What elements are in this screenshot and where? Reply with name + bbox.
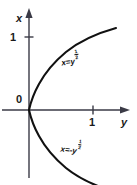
- plot-area: x y 1 1 0: [0, 0, 137, 185]
- lower-branch-annotation-base: x=-y: [60, 145, 77, 156]
- parabola-figure: x y 1 1 0 x=y12 x=-y12: [0, 0, 137, 185]
- upper-branch-exponent-denominator: 2: [75, 55, 79, 60]
- lower-branch-exponent-denominator: 2: [77, 145, 81, 150]
- origin-label: 0: [16, 93, 22, 105]
- upper-branch-curve: [29, 28, 116, 110]
- vertical-axis-tick-label-1: 1: [10, 31, 16, 43]
- vertical-axis-arrow-icon: [25, 8, 32, 18]
- upper-branch-annotation: x=y12: [60, 50, 79, 68]
- upper-branch-annotation-base: x=y: [61, 57, 76, 68]
- vertical-axis-label: x: [15, 12, 23, 24]
- horizontal-axis-arrow-icon: [120, 106, 130, 113]
- horizontal-axis-tick-label-1: 1: [89, 116, 95, 128]
- lower-branch-annotation: x=-y12: [60, 138, 82, 156]
- horizontal-axis-label: y: [120, 116, 128, 128]
